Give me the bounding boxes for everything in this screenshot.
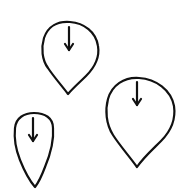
pin-right	[106, 78, 174, 167]
down-arrow-icon	[65, 27, 73, 50]
teardrop-outline	[42, 22, 98, 94]
pins-drawing	[0, 0, 191, 195]
teardrop-outline	[106, 78, 174, 167]
drawing-canvas	[0, 0, 191, 195]
down-arrow-icon	[29, 118, 37, 141]
down-arrow-icon	[133, 82, 141, 105]
pin-top-left	[42, 22, 98, 94]
pin-bottom-left	[15, 113, 53, 187]
